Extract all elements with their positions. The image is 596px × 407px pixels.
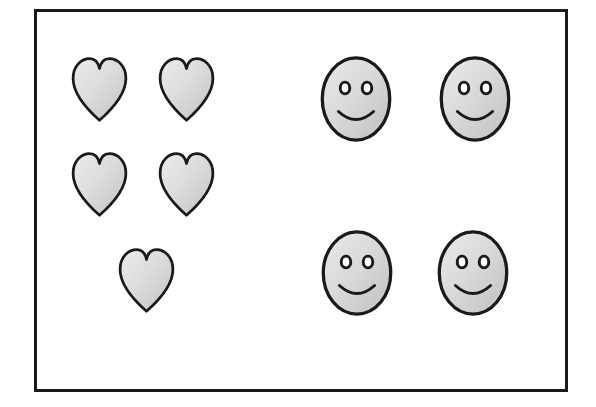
right-eye-icon bbox=[362, 82, 372, 94]
heart-shape bbox=[72, 151, 127, 218]
heart-shape bbox=[72, 56, 127, 123]
right-eye-icon bbox=[479, 256, 489, 268]
smiley-face-shape bbox=[320, 229, 394, 317]
heart-shape bbox=[159, 151, 214, 218]
smiley-face-shape bbox=[438, 55, 512, 143]
left-eye-icon bbox=[340, 82, 350, 94]
heart-shape bbox=[119, 247, 174, 314]
smiley-face-shape bbox=[436, 229, 510, 317]
left-eye-icon bbox=[341, 256, 351, 268]
smiley-face-shape bbox=[319, 55, 393, 143]
heart-shape bbox=[159, 56, 214, 123]
illustration-canvas bbox=[0, 0, 596, 407]
right-eye-icon bbox=[363, 256, 373, 268]
left-eye-icon bbox=[459, 82, 469, 94]
right-eye-icon bbox=[481, 82, 491, 94]
left-eye-icon bbox=[457, 256, 467, 268]
